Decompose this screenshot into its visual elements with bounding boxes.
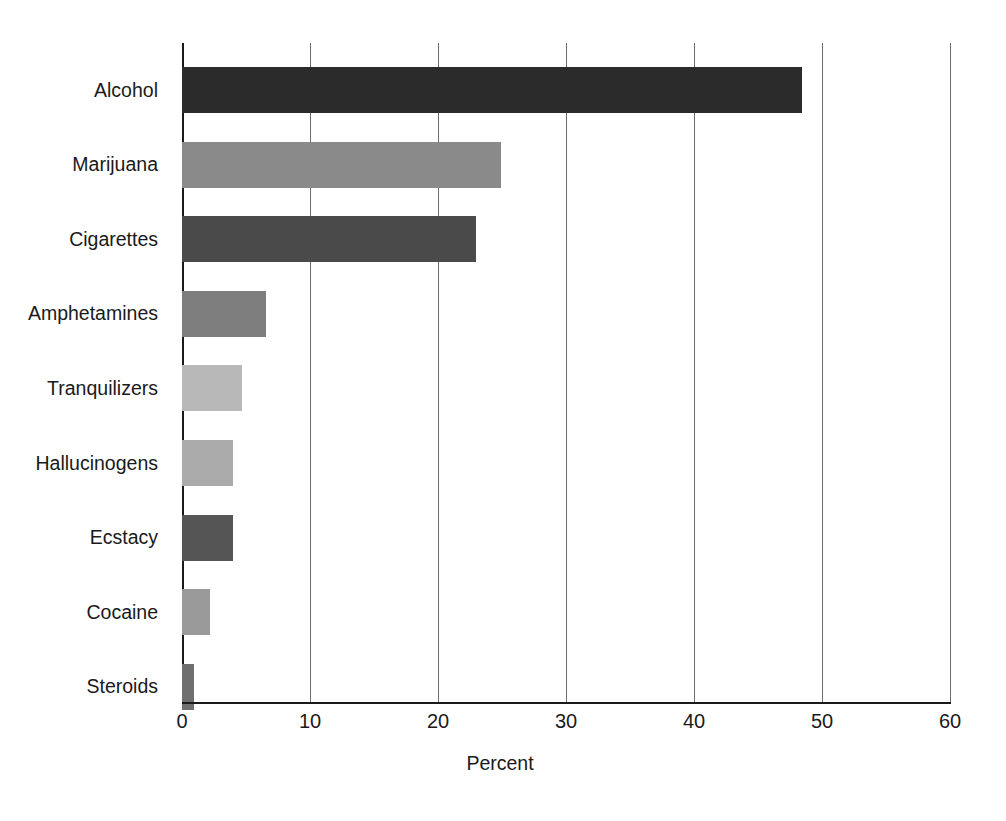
bar-cocaine [182,589,210,635]
bar-row [182,589,950,635]
x-axis-title: Percent [0,752,1006,775]
category-label-steroids: Steroids [0,664,170,710]
bar-row [182,440,950,486]
bar-ecstacy [182,515,233,561]
bar-alcohol [182,67,802,113]
x-tick-50: 50 [811,710,833,733]
category-label-amphetamines: Amphetamines [0,291,170,337]
category-label-ecstacy: Ecstacy [0,515,170,561]
x-tick-0: 0 [176,710,187,733]
x-axis-title-text: Percent [466,752,533,775]
x-tick-30: 30 [555,710,577,733]
bar-row [182,291,950,337]
bar-row [182,67,950,113]
x-tick-20: 20 [427,710,449,733]
bar-chart: AlcoholMarijuanaCigarettesAmphetaminesTr… [0,0,1006,821]
bar-cigarettes [182,216,476,262]
category-label-cigarettes: Cigarettes [0,216,170,262]
gridline-60 [950,43,951,703]
bar-row [182,515,950,561]
x-tick-60: 60 [939,710,961,733]
bar-hallucinogens [182,440,233,486]
bar-marijuana [182,142,501,188]
category-label-marijuana: Marijuana [0,142,170,188]
category-label-alcohol: Alcohol [0,67,170,113]
bar-row [182,142,950,188]
plot-area [182,43,950,703]
bar-tranquilizers [182,365,242,411]
bar-row [182,365,950,411]
x-tick-40: 40 [683,710,705,733]
x-axis-line [182,702,951,704]
bar-row [182,216,950,262]
category-label-cocaine: Cocaine [0,589,170,635]
x-tick-10: 10 [299,710,321,733]
category-label-tranquilizers: Tranquilizers [0,365,170,411]
bar-amphetamines [182,291,266,337]
category-label-hallucinogens: Hallucinogens [0,440,170,486]
